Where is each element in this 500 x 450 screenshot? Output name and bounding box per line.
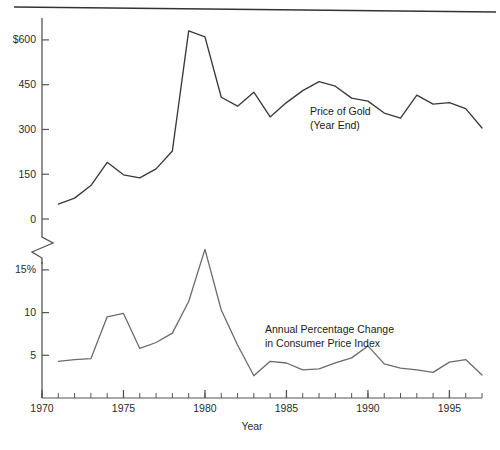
gold-series-annotation-line1: Price of Gold	[310, 105, 371, 117]
gold-y-tick-label: $600	[13, 33, 37, 45]
gold-y-tick-label: 150	[18, 168, 36, 180]
cpi-y-tick-label: 5	[30, 349, 36, 361]
cpi-series-annotation-line2: in Consumer Price Index	[265, 337, 381, 349]
chart-background	[0, 0, 500, 450]
gold-y-tick-label: 450	[18, 78, 36, 90]
gold-series-annotation-line2: (Year End)	[310, 119, 360, 131]
x-major-tick-label: 1990	[356, 402, 380, 414]
gold-y-tick-label: 300	[18, 123, 36, 135]
dual-panel-line-chart: $6004503001500 Price of Gold (Year End) …	[0, 0, 500, 450]
cpi-series-annotation-line1: Annual Percentage Change	[265, 323, 394, 335]
x-axis-title: Year	[241, 420, 263, 432]
x-major-tick-label: 1995	[438, 402, 462, 414]
x-major-tick-label: 1980	[193, 402, 217, 414]
x-major-tick-label: 1985	[275, 402, 299, 414]
cpi-y-tick-label: 15%	[15, 263, 36, 275]
chart-figure: $6004503001500 Price of Gold (Year End) …	[0, 0, 500, 450]
x-major-tick-label: 1975	[112, 402, 136, 414]
gold-y-tick-label: 0	[30, 213, 36, 225]
cpi-y-tick-label: 10	[24, 306, 36, 318]
x-major-tick-label: 1970	[30, 402, 54, 414]
